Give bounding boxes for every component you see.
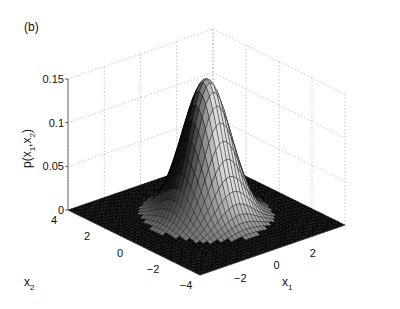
x2-tick-label: −2: [147, 263, 160, 275]
x2-tick-label: 2: [84, 230, 90, 242]
z-tick-label: 0.1: [49, 117, 64, 129]
x2-axis-label: x2: [24, 275, 35, 292]
grid-line-z: [213, 73, 345, 138]
x2-tick-label: 0: [117, 247, 123, 259]
x1-tick-label: 2: [310, 247, 316, 259]
x1-tick-label: 0: [273, 259, 279, 271]
z-tick-label: 0: [58, 204, 64, 216]
z-tick-label: 0.05: [43, 160, 64, 172]
x2-tick-label: 4: [51, 214, 57, 226]
z-tick-label: 0.15: [43, 73, 64, 85]
gaussian-surface: [68, 79, 345, 276]
x1-tick-label: −2: [234, 272, 247, 284]
z-axis-label: p(x1,x2): [20, 129, 37, 168]
surface-plot: 00.050.10.15420−2−4−202 x1 x2 p(x1,x2): [0, 0, 400, 309]
x1-axis-label: x1: [282, 275, 293, 292]
x2-tick-label: −4: [180, 279, 193, 291]
